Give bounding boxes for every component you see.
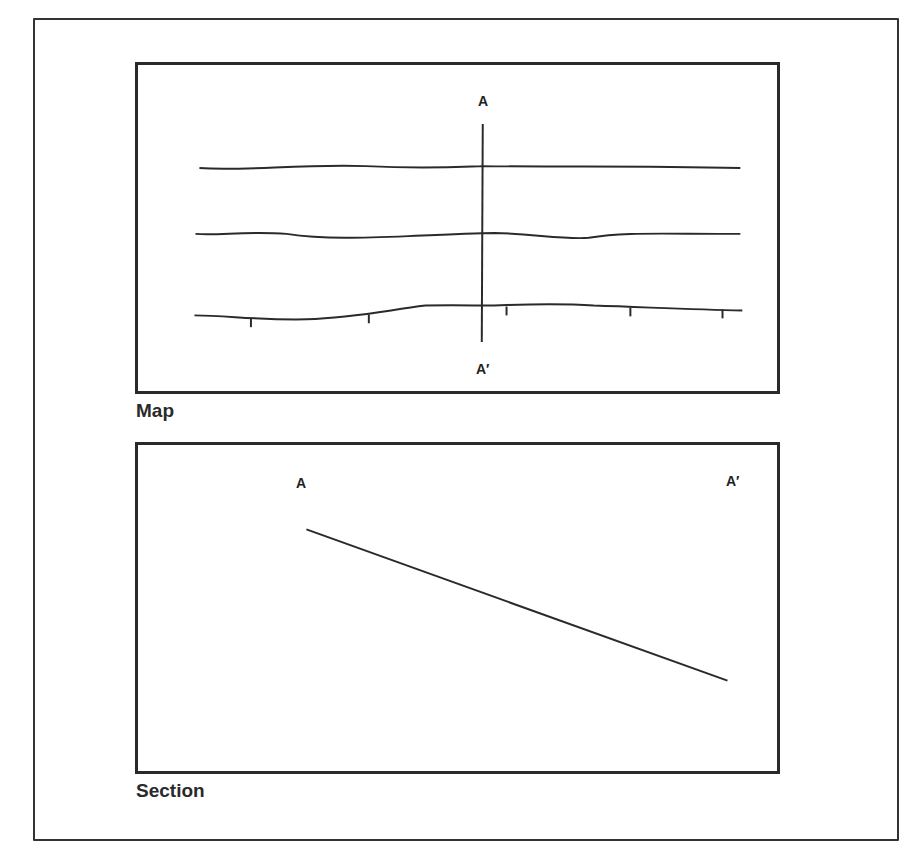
label-a-prime-map: A′ xyxy=(476,361,489,377)
section-line-a-a-prime xyxy=(482,124,483,342)
label-a-section: A xyxy=(296,475,306,491)
section-panel: A A′ xyxy=(135,442,780,774)
hachure-ticks xyxy=(251,307,723,328)
map-panel: A A′ xyxy=(135,62,780,394)
section-drawing xyxy=(138,445,777,771)
contour-line-2 xyxy=(195,233,740,238)
label-a-prime-section: A′ xyxy=(726,473,739,489)
label-a-map: A xyxy=(478,93,488,109)
section-caption: Section xyxy=(136,780,205,802)
contour-line-1 xyxy=(199,166,740,169)
contour-line-3 xyxy=(194,304,742,319)
map-drawing xyxy=(138,65,777,391)
map-caption: Map xyxy=(136,400,174,422)
profile-line xyxy=(306,529,727,680)
